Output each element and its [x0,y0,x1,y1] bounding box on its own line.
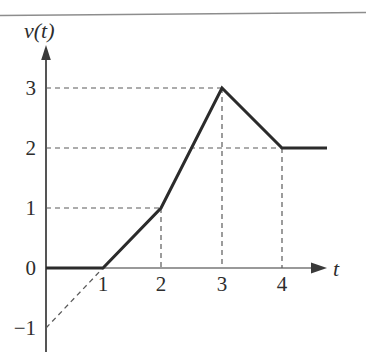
x-tick-label-1: 1 [89,274,117,295]
y-tick-label-minus-1: −1 [0,318,36,339]
velocity-time-plot [0,0,366,362]
x-tick-label-4: 4 [268,274,296,295]
x-tick-label-3: 3 [208,274,236,295]
top-horizontal-rule [0,13,366,16]
y-tick-label-3: 3 [8,78,36,99]
x-tick-label-2: 2 [147,274,175,295]
y-tick-label-0: 0 [8,258,36,279]
velocity-curve [46,88,327,268]
figure-container: 3 2 1 0 −1 1 2 3 4 v(t) t [0,0,366,362]
y-axis-arrow-icon [41,45,51,60]
axis-group [41,45,327,352]
y-tick-label-1: 1 [8,198,36,219]
y-axis-label: v(t) [24,20,55,42]
x-axis-label: t [333,258,339,280]
x-axis-arrow-icon [311,263,327,274]
guide-lines [46,88,282,268]
y-tick-label-2: 2 [8,138,36,159]
